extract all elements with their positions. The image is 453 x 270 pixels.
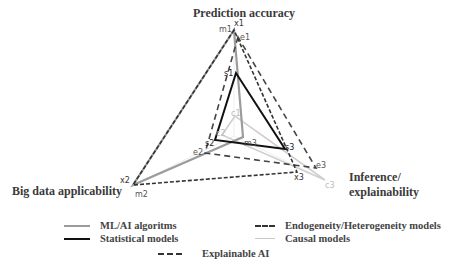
axis-title-big-data: Big data applicability xyxy=(12,184,122,198)
label-c3: c3 xyxy=(325,181,335,190)
axis-guides xyxy=(133,30,325,185)
series-ml-ai xyxy=(133,30,243,185)
series-explainable-ai xyxy=(133,30,297,185)
legend-swatch-stat xyxy=(64,238,90,240)
label-e1: e1 xyxy=(240,33,250,42)
label-e2: e2 xyxy=(193,148,203,157)
legend-ml-ai: ML/AI algoritms xyxy=(64,220,177,231)
label-e3: e3 xyxy=(316,161,326,170)
legend-label-xai: Explainable AI xyxy=(202,248,269,259)
legend-swatch-causal xyxy=(255,238,275,239)
label-m1: m1 xyxy=(219,25,232,34)
legend-causal: Causal models xyxy=(255,233,350,244)
label-x2: x2 xyxy=(120,176,130,185)
legend-endogeneity: Endogeneity/Heterogeneity models xyxy=(255,220,441,231)
legend-label-stat: Statistical models xyxy=(100,233,178,244)
legend-label-endo: Endogeneity/Heterogeneity models xyxy=(285,220,441,231)
series-statistical-models xyxy=(215,73,285,149)
label-x1: x1 xyxy=(234,19,244,28)
axis-title-inference-line2: explainability xyxy=(349,185,419,199)
axis-title-inference-line1: Inference/ xyxy=(349,170,401,184)
label-s3: s3 xyxy=(285,143,294,152)
label-m3: m3 xyxy=(244,139,257,148)
legend-swatch-endo xyxy=(255,225,275,227)
label-c1: c1 xyxy=(231,109,241,118)
label-c2: c2 xyxy=(216,129,226,138)
legend-statistical: Statistical models xyxy=(64,233,178,244)
label-m2: m2 xyxy=(135,190,148,199)
axis-title-prediction-accuracy: Prediction accuracy xyxy=(193,6,295,20)
label-s1: s1 xyxy=(224,69,233,78)
legend-label-ml: ML/AI algoritms xyxy=(100,220,177,231)
legend-swatch-ml xyxy=(64,225,90,227)
legend-explainable-ai: Explainable AI xyxy=(158,248,269,259)
legend-swatch-xai xyxy=(158,253,182,255)
legend-label-causal: Causal models xyxy=(285,233,350,244)
label-x3: x3 xyxy=(294,173,304,182)
label-s2: s2 xyxy=(205,139,214,148)
